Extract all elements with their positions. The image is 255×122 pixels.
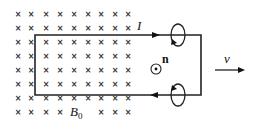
field-cross-icon: × <box>112 38 119 47</box>
current-label: I <box>136 18 142 33</box>
field-cross-icon: × <box>15 10 22 19</box>
field-cross-icon: × <box>98 52 105 61</box>
field-cross-icon: × <box>15 38 22 47</box>
field-cross-icon: × <box>57 52 64 61</box>
field-cross-icon: × <box>28 52 35 61</box>
field-cross-icon: × <box>71 80 78 89</box>
field-cross-icon: × <box>28 24 35 33</box>
field-cross-icon: × <box>43 10 50 19</box>
field-cross-icon: × <box>98 38 105 47</box>
field-cross-icon: × <box>15 52 22 61</box>
field-cross-icon: × <box>85 52 92 61</box>
field-cross-icon: × <box>98 80 105 89</box>
field-cross-icon: × <box>43 52 50 61</box>
field-cross-icon: × <box>125 66 132 75</box>
field-cross-icon: × <box>112 10 119 19</box>
field-cross-icon: × <box>57 10 64 19</box>
field-cross-icon: × <box>98 10 105 19</box>
field-cross-icon: × <box>98 24 105 33</box>
velocity-label: v <box>224 51 230 66</box>
field-cross-icon: × <box>71 38 78 47</box>
field-cross-icon: × <box>43 80 50 89</box>
field-cross-icon: × <box>98 66 105 75</box>
velocity-arrowhead-icon <box>238 67 245 73</box>
field-cross-icon: × <box>85 66 92 75</box>
field-cross-icon: × <box>85 10 92 19</box>
normal-vector-symbol <box>151 64 161 74</box>
field-cross-icon: × <box>71 24 78 33</box>
field-cross-icon: × <box>57 66 64 75</box>
field-cross-icon: × <box>71 52 78 61</box>
field-cross-icon: × <box>57 38 64 47</box>
field-cross-icon: × <box>28 38 35 47</box>
field-cross-icon: × <box>43 66 50 75</box>
field-cross-icon: × <box>57 24 64 33</box>
field-cross-icon: × <box>125 38 132 47</box>
field-cross-icon: × <box>112 24 119 33</box>
field-cross-icon: × <box>15 66 22 75</box>
field-cross-icon: × <box>43 38 50 47</box>
field-cross-icon: × <box>15 94 22 103</box>
magnetic-field-crosses: ××××××××××××××××××××××××××××××××××××××××… <box>15 10 132 117</box>
field-cross-icon: × <box>125 52 132 61</box>
field-cross-icon: × <box>125 10 132 19</box>
field-label: B0 <box>70 104 83 121</box>
field-cross-icon: × <box>28 10 35 19</box>
field-cross-icon: × <box>125 80 132 89</box>
field-cross-icon: × <box>112 108 119 117</box>
velocity-arrow <box>215 67 245 73</box>
field-cross-icon: × <box>43 24 50 33</box>
field-cross-icon: × <box>112 52 119 61</box>
field-cross-icon: × <box>125 108 132 117</box>
normal-label: n <box>162 52 169 66</box>
field-cross-icon: × <box>28 66 35 75</box>
field-cross-icon: × <box>57 108 64 117</box>
diagram-canvas: ××××××××××××××××××××××××××××××××××××××××… <box>0 0 255 122</box>
field-cross-icon: × <box>98 108 105 117</box>
field-cross-icon: × <box>15 24 22 33</box>
field-cross-icon: × <box>85 38 92 47</box>
field-cross-icon: × <box>85 80 92 89</box>
field-cross-icon: × <box>71 10 78 19</box>
field-cross-icon: × <box>57 80 64 89</box>
field-cross-icon: × <box>28 108 35 117</box>
circuit-diagram: ××××××××××××××××××××××××××××××××××××××××… <box>0 0 255 122</box>
field-cross-icon: × <box>85 24 92 33</box>
field-cross-icon: × <box>15 108 22 117</box>
field-cross-icon: × <box>43 108 50 117</box>
field-cross-icon: × <box>71 66 78 75</box>
field-cross-icon: × <box>15 80 22 89</box>
field-cross-icon: × <box>28 80 35 89</box>
field-cross-icon: × <box>28 94 35 103</box>
field-cross-icon: × <box>112 66 119 75</box>
field-cross-icon: × <box>112 80 119 89</box>
current-direction-arrow-icon <box>150 92 158 98</box>
rotation-symbols <box>171 24 185 106</box>
current-direction-arrow-icon <box>152 32 160 38</box>
field-cross-icon: × <box>125 24 132 33</box>
